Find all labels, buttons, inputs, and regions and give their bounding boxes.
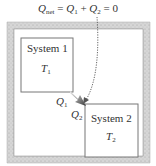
system1-label: System 1 xyxy=(27,42,68,54)
system2-temperature: T2 xyxy=(106,130,116,144)
system1-temperature: T1 xyxy=(41,62,51,76)
q-net-symbol: Q xyxy=(38,2,46,14)
q2-label: Q2 xyxy=(71,108,82,122)
equation: Qnet = Q1 + Q2 = 0 xyxy=(0,2,156,16)
q-net-subscript: net xyxy=(46,8,55,16)
rhs-value: 0 xyxy=(113,2,119,14)
q1-symbol: Q xyxy=(66,2,74,14)
plus-sign: + xyxy=(80,2,86,14)
system2-label: System 2 xyxy=(91,112,132,124)
equals-sign: = xyxy=(57,2,63,14)
q1-subscript: 1 xyxy=(74,8,78,16)
diagram-canvas xyxy=(0,0,156,166)
q1-label: Q1 xyxy=(56,95,67,109)
equals-sign-2: = xyxy=(104,2,110,14)
q2-subscript: 2 xyxy=(97,8,101,16)
